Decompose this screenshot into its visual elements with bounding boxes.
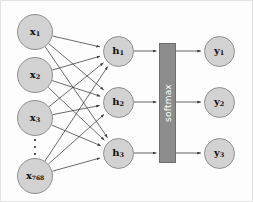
ellipsis-dot <box>34 139 36 141</box>
edge-x1-to-h2 <box>49 44 104 90</box>
output-node-y1: y1 <box>204 36 235 67</box>
hidden-node-h1: h1 <box>103 36 134 67</box>
edge-x768-to-h1 <box>45 67 108 161</box>
node-label-x2: x2 <box>30 70 40 81</box>
edge-x768-to-h2 <box>48 114 104 164</box>
node-label-x3: x3 <box>30 113 40 124</box>
input-node-x2: x2 <box>17 57 53 93</box>
edge-x1-to-h3 <box>45 47 107 138</box>
node-label-h1: h1 <box>112 46 124 57</box>
input-node-x1: x1 <box>17 14 53 50</box>
edge-x2-to-h1 <box>52 56 100 70</box>
hidden-node-h2: h2 <box>103 87 134 118</box>
edge-x1-to-h1 <box>53 36 100 47</box>
node-label-h3: h3 <box>112 148 124 159</box>
node-label-x768: x768 <box>26 171 44 181</box>
node-label-y2: y2 <box>214 97 224 108</box>
edges-hidden-to-softmax <box>134 51 157 153</box>
edge-x768-to-h3 <box>52 158 100 171</box>
input-node-x3: x3 <box>17 100 53 136</box>
node-label-y1: y1 <box>214 46 224 57</box>
output-node-y2: y2 <box>204 87 235 118</box>
edge-x3-to-h3 <box>52 125 101 146</box>
edges-input-to-hidden <box>45 36 108 171</box>
neural-network-diagram: x1x2x3x768h1h2h3y1y2y3 softmax <box>0 0 253 202</box>
input-ellipsis <box>34 139 36 156</box>
softmax-block: softmax <box>159 43 176 163</box>
node-label-y3: y3 <box>214 148 224 159</box>
ellipsis-dot <box>34 153 36 155</box>
input-node-x768: x768 <box>17 158 53 194</box>
ellipsis-dot <box>34 146 36 148</box>
node-label-h2: h2 <box>112 97 124 108</box>
softmax-label: softmax <box>163 84 173 122</box>
edges-softmax-to-output <box>176 51 201 153</box>
output-node-y3: y3 <box>204 138 235 169</box>
hidden-node-h3: h3 <box>103 138 134 169</box>
node-label-x1: x1 <box>30 27 40 38</box>
